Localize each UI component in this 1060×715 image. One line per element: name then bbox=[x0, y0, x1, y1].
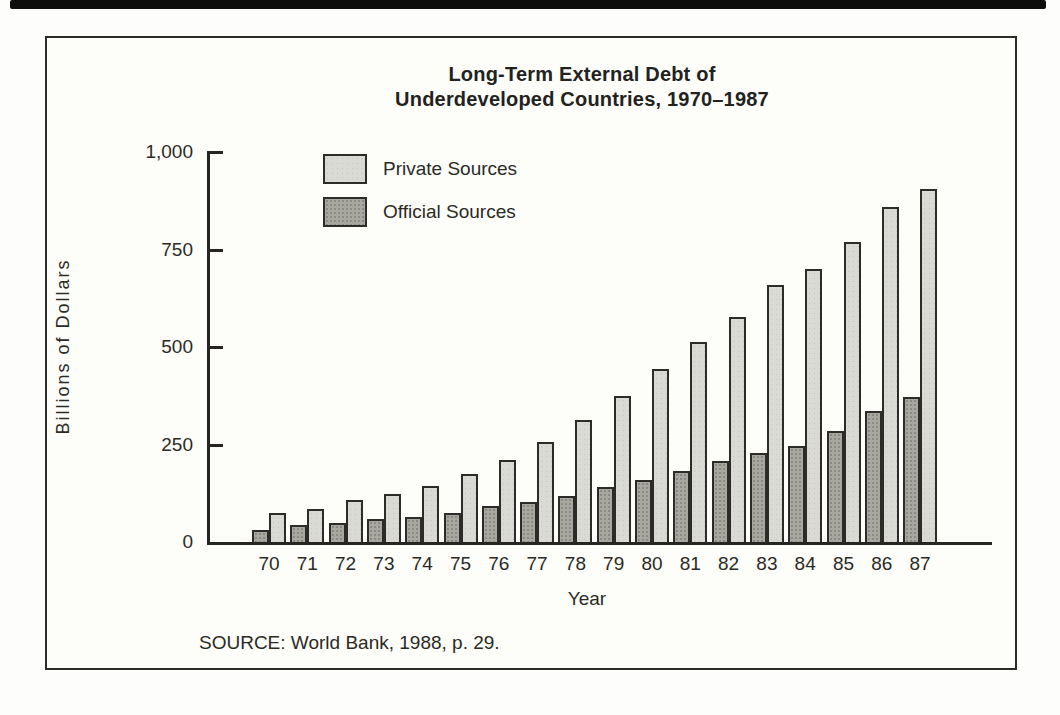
bar-official-73 bbox=[367, 519, 384, 542]
x-tick-label-77: 77 bbox=[517, 553, 557, 575]
bar-official-86 bbox=[865, 411, 882, 542]
bar-official-75 bbox=[444, 513, 461, 542]
x-tick-label-73: 73 bbox=[364, 553, 404, 575]
bar-private-77 bbox=[537, 442, 554, 542]
x-tick-label-72: 72 bbox=[326, 553, 366, 575]
y-tick-750 bbox=[207, 249, 223, 252]
bar-official-74 bbox=[405, 517, 422, 542]
bar-official-82 bbox=[712, 461, 729, 542]
bar-private-79 bbox=[614, 396, 631, 542]
figure-frame: Long-Term External Debt of Underdevelope… bbox=[45, 36, 1017, 670]
bar-private-74 bbox=[422, 486, 439, 542]
y-tick-500 bbox=[207, 346, 223, 349]
y-tick-label-750: 750 bbox=[89, 239, 193, 261]
page-top-rule bbox=[10, 0, 1046, 9]
bar-official-87 bbox=[903, 397, 920, 542]
bar-private-76 bbox=[499, 460, 516, 542]
x-axis-title: Year bbox=[487, 588, 687, 610]
x-tick-label-79: 79 bbox=[594, 553, 634, 575]
y-tick-label-250: 250 bbox=[89, 434, 193, 456]
x-tick-label-74: 74 bbox=[402, 553, 442, 575]
x-tick-label-81: 81 bbox=[670, 553, 710, 575]
bar-private-71 bbox=[307, 509, 324, 542]
bar-private-73 bbox=[384, 494, 401, 542]
bar-private-87 bbox=[920, 189, 937, 542]
bar-private-80 bbox=[652, 369, 669, 542]
bar-official-84 bbox=[788, 446, 805, 542]
y-tick-label-0: 0 bbox=[89, 531, 193, 553]
y-tick-label-1000: 1,000 bbox=[89, 141, 193, 163]
x-tick-label-70: 70 bbox=[249, 553, 289, 575]
source-note: SOURCE: World Bank, 1988, p. 29. bbox=[199, 632, 500, 654]
figure-page: Long-Term External Debt of Underdevelope… bbox=[0, 0, 1060, 715]
bar-official-72 bbox=[329, 523, 346, 542]
bar-official-83 bbox=[750, 453, 767, 542]
y-tick-label-500: 500 bbox=[89, 336, 193, 358]
plot-area: 02505007501,0007071727374757677787980818… bbox=[47, 38, 1015, 668]
bar-private-86 bbox=[882, 207, 899, 542]
x-tick-label-84: 84 bbox=[785, 553, 825, 575]
x-tick-label-86: 86 bbox=[862, 553, 902, 575]
bar-official-76 bbox=[482, 506, 499, 542]
bar-private-82 bbox=[729, 317, 746, 542]
bar-private-72 bbox=[346, 500, 363, 542]
y-tick-250 bbox=[207, 444, 223, 447]
bar-private-83 bbox=[767, 285, 784, 542]
bar-official-71 bbox=[290, 525, 307, 542]
bar-official-81 bbox=[673, 471, 690, 542]
x-tick-label-80: 80 bbox=[632, 553, 672, 575]
x-tick-label-83: 83 bbox=[747, 553, 787, 575]
bar-official-79 bbox=[597, 487, 614, 542]
bar-private-78 bbox=[575, 420, 592, 542]
y-tick-1000 bbox=[207, 151, 223, 154]
bar-private-85 bbox=[844, 242, 861, 542]
bar-official-70 bbox=[252, 530, 269, 542]
bar-official-85 bbox=[827, 431, 844, 542]
x-tick-label-85: 85 bbox=[824, 553, 864, 575]
x-axis-line bbox=[207, 542, 992, 545]
bar-private-81 bbox=[690, 342, 707, 542]
x-tick-label-78: 78 bbox=[555, 553, 595, 575]
bar-private-75 bbox=[461, 474, 478, 542]
bar-private-84 bbox=[805, 269, 822, 542]
bar-official-77 bbox=[520, 502, 537, 542]
x-tick-label-87: 87 bbox=[900, 553, 940, 575]
bar-private-70 bbox=[269, 513, 286, 542]
x-tick-label-76: 76 bbox=[479, 553, 519, 575]
bar-official-80 bbox=[635, 480, 652, 542]
x-tick-label-75: 75 bbox=[441, 553, 481, 575]
x-tick-label-71: 71 bbox=[287, 553, 327, 575]
bar-official-78 bbox=[558, 496, 575, 542]
x-tick-label-82: 82 bbox=[709, 553, 749, 575]
